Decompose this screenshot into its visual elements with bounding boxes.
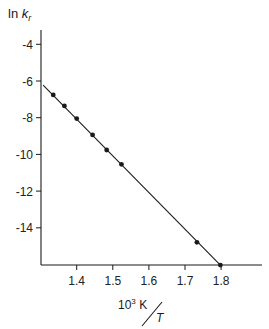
data-point (74, 116, 79, 121)
data-point (218, 263, 223, 268)
arrhenius-plot: -4-6-8-10-12-141.41.51.61.71.8 (0, 0, 269, 329)
data-point (119, 162, 124, 167)
fit-line (43, 85, 220, 265)
data-point (90, 133, 95, 138)
x-axis-label: 103 K T (118, 294, 174, 328)
x-tick-label: 1.6 (141, 274, 158, 288)
data-point (104, 148, 109, 153)
axes (41, 30, 262, 265)
y-axis-label: ln kr (8, 6, 31, 23)
y-label-subscript: r (28, 13, 31, 23)
y-tick-label: -8 (22, 111, 33, 125)
data-point (51, 93, 56, 98)
x-tick-label: 1.8 (213, 274, 230, 288)
y-label-prefix: ln (8, 6, 22, 21)
y-tick-label: -4 (22, 38, 33, 52)
x-tick-label: 1.7 (177, 274, 194, 288)
y-tick-label: -10 (16, 148, 34, 162)
x-tick-label: 1.5 (104, 274, 121, 288)
x-tick-label: 1.4 (68, 274, 85, 288)
y-tick-label: -14 (16, 221, 34, 235)
data-point (195, 240, 200, 245)
y-tick-label: -12 (16, 185, 34, 199)
y-tick-label: -6 (22, 75, 33, 89)
regression-line (43, 85, 220, 265)
data-point (62, 104, 67, 109)
x-label-denominator: T (156, 311, 163, 325)
x-label-base: 10 (118, 298, 131, 312)
